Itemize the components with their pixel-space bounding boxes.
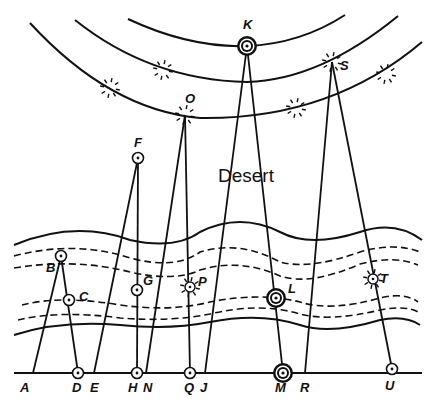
point-label-K: K xyxy=(243,17,254,32)
point-label-J: J xyxy=(200,380,208,395)
point-label-L: L xyxy=(288,281,296,296)
point-label-C: C xyxy=(79,289,89,304)
point-H-marker xyxy=(132,368,143,379)
river-bank-1 xyxy=(14,318,420,335)
point-label-O: O xyxy=(185,91,195,106)
point-label-S: S xyxy=(340,58,349,73)
point-label-U: U xyxy=(385,378,395,393)
point-G-marker xyxy=(132,285,143,296)
point-D-marker xyxy=(73,368,84,379)
arc-middle xyxy=(75,16,398,82)
point-B-marker xyxy=(56,251,67,262)
arc-inner xyxy=(128,15,345,46)
diagram-canvas: ABCDEFGHNOPQJKLMRSTU Desert xyxy=(0,0,437,409)
point-label-T: T xyxy=(380,271,389,286)
point-label-F: F xyxy=(134,135,143,150)
line-KM xyxy=(247,46,283,373)
point-label-B: B xyxy=(46,260,55,275)
river-dashed-0 xyxy=(14,247,420,264)
arc-outer xyxy=(30,23,422,118)
orbit-arcs xyxy=(30,15,422,118)
line-SU xyxy=(332,62,392,369)
point-label-A: A xyxy=(19,380,29,395)
point-L-marker xyxy=(266,288,286,308)
point-label-M: M xyxy=(275,380,287,395)
point-label-R: R xyxy=(300,380,310,395)
point-U-marker xyxy=(387,364,398,375)
point-label-Q: Q xyxy=(184,380,194,395)
point-P-star-icon xyxy=(180,277,200,297)
line-JK xyxy=(205,46,247,373)
line-EF xyxy=(94,158,138,373)
point-labels: ABCDEFGHNOPQJKLMRSTU xyxy=(19,17,395,395)
point-label-H: H xyxy=(128,380,138,395)
point-label-P: P xyxy=(198,274,207,289)
river-dashed-3 xyxy=(18,308,418,320)
river-bank-0 xyxy=(14,222,422,245)
region-label-desert: Desert xyxy=(218,165,275,186)
line-OQ xyxy=(185,115,190,373)
line-FH xyxy=(137,158,138,373)
point-label-E: E xyxy=(90,380,99,395)
point-Q-marker xyxy=(185,368,196,379)
line-RS xyxy=(305,62,332,373)
river-dashed-1 xyxy=(14,260,418,279)
point-K-marker xyxy=(237,36,257,56)
point-label-N: N xyxy=(143,380,153,395)
point-F-marker xyxy=(133,153,144,164)
triangulation-diagram: ABCDEFGHNOPQJKLMRSTU Desert xyxy=(0,0,437,409)
point-C-marker xyxy=(64,295,75,306)
point-label-D: D xyxy=(72,380,82,395)
star-icon xyxy=(376,64,396,84)
point-label-G: G xyxy=(143,273,153,288)
